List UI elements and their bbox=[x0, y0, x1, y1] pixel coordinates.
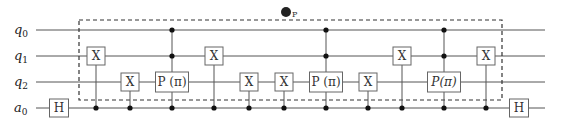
svg-text:X: X bbox=[398, 49, 407, 63]
controlled-x-gate[interactable]: X bbox=[87, 47, 105, 111]
qubit-label: q2 bbox=[14, 74, 28, 91]
svg-text:P (π): P (π) bbox=[311, 75, 340, 89]
control-dot-icon bbox=[441, 53, 446, 58]
svg-text:X: X bbox=[364, 75, 373, 89]
controlled-phase-gate[interactable]: P (π) bbox=[156, 27, 189, 110]
svg-text:X: X bbox=[280, 75, 289, 89]
marker-dot-icon bbox=[281, 7, 291, 17]
control-dot-icon bbox=[399, 105, 404, 110]
control-dot-icon bbox=[169, 27, 174, 32]
control-dot-icon bbox=[169, 105, 174, 110]
control-dot-icon bbox=[211, 105, 216, 110]
controlled-x-gate[interactable]: X bbox=[121, 73, 139, 111]
controlled-phase-gate[interactable]: P(π) bbox=[428, 27, 461, 110]
svg-text:X: X bbox=[482, 49, 491, 63]
controlled-x-gate[interactable]: X bbox=[393, 47, 411, 111]
svg-text:X: X bbox=[126, 75, 135, 89]
qubit-label: a0 bbox=[14, 100, 28, 117]
control-dot-icon bbox=[127, 105, 132, 110]
control-dot-icon bbox=[323, 53, 328, 58]
controlled-x-gate[interactable]: X bbox=[477, 47, 495, 111]
control-dot-icon bbox=[281, 105, 286, 110]
controlled-x-gate[interactable]: X bbox=[240, 73, 258, 111]
svg-text:H: H bbox=[514, 101, 524, 115]
control-dot-icon bbox=[169, 53, 174, 58]
hadamard-gate[interactable]: H bbox=[510, 99, 529, 117]
hadamard-gate[interactable]: H bbox=[50, 99, 69, 117]
svg-text:X: X bbox=[92, 49, 101, 63]
controlled-x-gate[interactable]: X bbox=[275, 73, 293, 111]
control-dot-icon bbox=[323, 27, 328, 32]
control-dot-icon bbox=[93, 105, 98, 110]
quantum-circuit: q0q1q2a0PHXXP (π)XXXP (π)XXP(π)XH bbox=[0, 0, 565, 125]
svg-text:P(π): P(π) bbox=[430, 75, 457, 89]
qubit-label: q0 bbox=[14, 22, 28, 39]
qubit-label: q1 bbox=[14, 48, 28, 65]
svg-text:X: X bbox=[210, 49, 219, 63]
controlled-phase-gate[interactable]: P (π) bbox=[310, 27, 343, 110]
control-dot-icon bbox=[483, 105, 488, 110]
controlled-x-gate[interactable]: X bbox=[205, 47, 223, 111]
control-dot-icon bbox=[365, 105, 370, 110]
svg-text:H: H bbox=[54, 101, 64, 115]
control-dot-icon bbox=[323, 105, 328, 110]
control-dot-icon bbox=[441, 27, 446, 32]
marker-label: P bbox=[292, 10, 298, 19]
svg-text:X: X bbox=[245, 75, 254, 89]
control-dot-icon bbox=[246, 105, 251, 110]
svg-text:P (π): P (π) bbox=[157, 75, 186, 89]
control-dot-icon bbox=[441, 105, 446, 110]
controlled-x-gate[interactable]: X bbox=[359, 73, 377, 111]
